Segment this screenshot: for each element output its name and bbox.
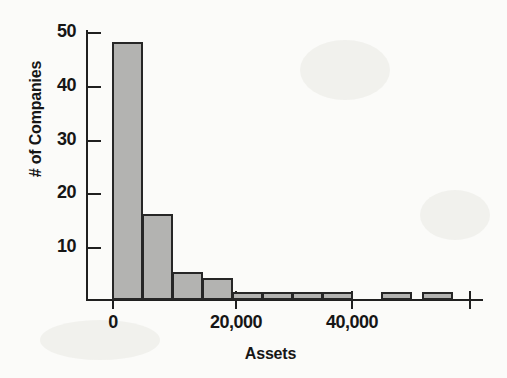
histogram-bar xyxy=(112,42,143,300)
y-axis-tick xyxy=(88,247,101,249)
y-axis-tick-label: 10 xyxy=(34,236,76,257)
x-axis-tick-label: 20,000 xyxy=(210,312,262,333)
y-axis-tick xyxy=(88,86,101,88)
y-axis-tick-label: 40 xyxy=(34,75,76,96)
paper-blotch xyxy=(300,40,390,100)
y-axis-line xyxy=(86,30,88,300)
x-axis-tick xyxy=(469,291,471,309)
histogram-figure: # of Companies Assets 50 40 30 20 10 0 2… xyxy=(0,0,507,378)
y-axis-tick-label: 30 xyxy=(34,129,76,150)
paper-blotch xyxy=(420,190,490,240)
histogram-bar xyxy=(232,292,263,300)
histogram-bar xyxy=(422,292,453,300)
x-axis-tick-label: 40,000 xyxy=(326,312,378,333)
y-axis-tick xyxy=(88,32,101,34)
histogram-bar xyxy=(142,214,173,300)
histogram-bar xyxy=(292,292,323,300)
histogram-bar xyxy=(262,292,293,300)
x-axis-tick-label: 0 xyxy=(108,312,118,333)
y-axis-tick xyxy=(88,140,101,142)
x-axis-label-text: Assets xyxy=(245,345,296,363)
y-axis-tick-label: 50 xyxy=(34,21,76,42)
histogram-bar xyxy=(322,292,353,300)
histogram-bar xyxy=(172,272,203,300)
histogram-bar xyxy=(202,278,233,300)
y-axis-tick xyxy=(88,193,101,195)
histogram-bar xyxy=(381,292,412,300)
x-axis-label: Assets xyxy=(0,345,507,363)
y-axis-tick-label: 20 xyxy=(34,182,76,203)
